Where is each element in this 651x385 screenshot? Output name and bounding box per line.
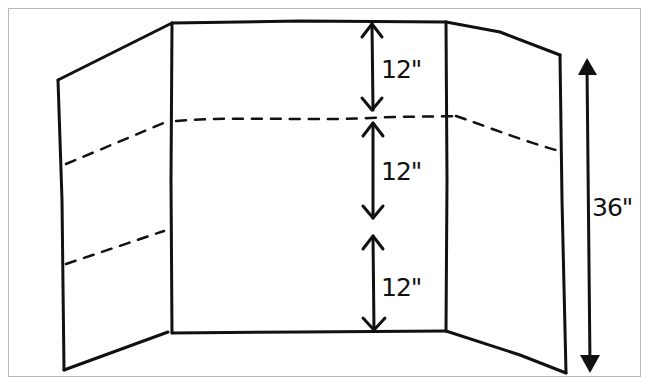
segment-label-top: 12" xyxy=(381,55,421,84)
left-wing-panel xyxy=(58,23,172,370)
segment-label-bottom: 12" xyxy=(381,273,421,302)
arrow-head-up-icon xyxy=(578,58,597,75)
dimension-arrow-total xyxy=(587,66,590,365)
trifold-board-diagram: 12" 12" 12" 36" xyxy=(0,0,651,385)
dimension-arrow-top xyxy=(362,24,382,110)
arrow-head-down-icon xyxy=(580,355,600,373)
fold-line-center xyxy=(176,116,456,121)
total-height-label: 36" xyxy=(592,193,632,222)
fold-line-left-upper xyxy=(66,122,166,164)
segment-label-middle: 12" xyxy=(381,157,421,186)
fold-line-right xyxy=(456,116,556,150)
dimension-arrow-middle xyxy=(363,123,383,218)
fold-line-left-lower xyxy=(66,231,164,264)
right-wing-panel xyxy=(446,22,566,373)
fold-lines xyxy=(66,116,556,264)
